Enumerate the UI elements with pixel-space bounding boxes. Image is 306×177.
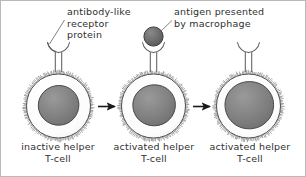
callout-antigen-presented-by-macrophage: antigen presented by macrophage xyxy=(174,6,264,29)
cell-group-2 xyxy=(117,27,190,142)
caption-line: activated helper xyxy=(104,141,204,153)
immunology-diagram-figure: antibody-like receptor protein antigen p… xyxy=(0,0,306,177)
cell-nucleus-2 xyxy=(133,85,176,126)
cell-group-1 xyxy=(22,43,94,143)
cell-nucleus-3 xyxy=(225,82,274,129)
leader-line-antigen xyxy=(160,21,172,33)
receptor-cell-3 xyxy=(238,43,260,72)
caption-line: T-cell xyxy=(200,153,300,165)
antigen-cell-2 xyxy=(144,27,163,46)
callout-line: antibody-like xyxy=(67,6,131,18)
caption-line: activated helper xyxy=(200,141,300,153)
receptor-cell-1 xyxy=(48,43,70,72)
callout-line: antigen presented xyxy=(174,6,264,18)
caption-activated-helper-t-cell-right: activated helper T-cell xyxy=(200,141,300,165)
leader-line-receptor xyxy=(50,20,65,44)
callout-line: receptor xyxy=(67,18,131,30)
callout-antibody-like-receptor-protein: antibody-like receptor protein xyxy=(67,6,131,41)
cell-group-3 xyxy=(212,43,284,143)
callout-line: protein xyxy=(67,29,131,41)
caption-line: T-cell xyxy=(8,153,108,165)
caption-line: T-cell xyxy=(104,153,204,165)
receptor-cell-2 xyxy=(143,43,165,72)
cell-nucleus-1 xyxy=(38,85,79,125)
callout-line: by macrophage xyxy=(174,18,264,30)
caption-activated-helper-t-cell-middle: activated helper T-cell xyxy=(104,141,204,165)
caption-line: inactive helper xyxy=(8,141,108,153)
caption-inactive-helper-t-cell: inactive helper T-cell xyxy=(8,141,108,165)
